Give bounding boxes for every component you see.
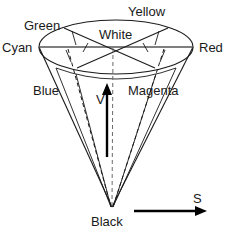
label-cyan: Cyan xyxy=(2,40,32,55)
hsv-cone-diagram: Yellow Green White Cyan Red Blue Magenta… xyxy=(0,0,229,232)
cone-hidden-generatrices xyxy=(68,49,164,207)
label-white: White xyxy=(99,27,132,42)
hsv-cone-figure: Yellow Green White Cyan Red Blue Magenta… xyxy=(0,0,229,232)
cone-silhouette xyxy=(39,47,193,207)
generatrix-left-outer xyxy=(56,68,111,207)
label-green: Green xyxy=(24,18,60,33)
label-red: Red xyxy=(199,40,223,55)
label-black: Black xyxy=(91,214,123,229)
saturation-arrow xyxy=(134,206,207,216)
rim-tick-lower-right xyxy=(160,50,165,62)
label-saturation-axis: S xyxy=(193,191,202,206)
center-dashed-axis xyxy=(112,48,113,206)
label-yellow: Yellow xyxy=(128,4,166,19)
label-magenta: Magenta xyxy=(128,83,179,98)
label-value-axis: V xyxy=(96,92,105,107)
saturation-arrow-head xyxy=(195,206,207,216)
label-blue: Blue xyxy=(33,83,59,98)
